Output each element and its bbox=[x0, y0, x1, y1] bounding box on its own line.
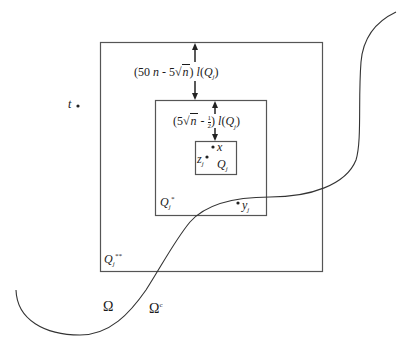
sqrt-symbol: √n bbox=[183, 115, 198, 127]
inner-cube-label: Qj bbox=[217, 158, 228, 170]
point-label-t: t bbox=[68, 98, 71, 110]
region-label-omega: Ω bbox=[103, 300, 113, 314]
outer-cube-label: Qj** bbox=[104, 253, 122, 265]
diagram-canvas bbox=[0, 0, 407, 347]
point-x bbox=[211, 145, 214, 148]
distance-label-middle: (5√n - 12) l(Qj) bbox=[173, 115, 240, 130]
point-label-yj: yj bbox=[242, 199, 249, 211]
point-yj bbox=[236, 201, 239, 204]
distance-label-outer: (50 n - 5√n) l(Qj) bbox=[134, 66, 219, 78]
boundary-curve-omega bbox=[16, 12, 396, 335]
point-t bbox=[76, 104, 79, 107]
point-zj bbox=[205, 155, 208, 158]
point-label-zj: zj bbox=[197, 153, 204, 165]
middle-cube-label: Qj* bbox=[160, 196, 174, 208]
region-label-omega-complement: Ωc bbox=[149, 302, 163, 316]
point-label-x: x bbox=[217, 141, 222, 153]
sqrt-symbol: √n bbox=[175, 66, 190, 78]
